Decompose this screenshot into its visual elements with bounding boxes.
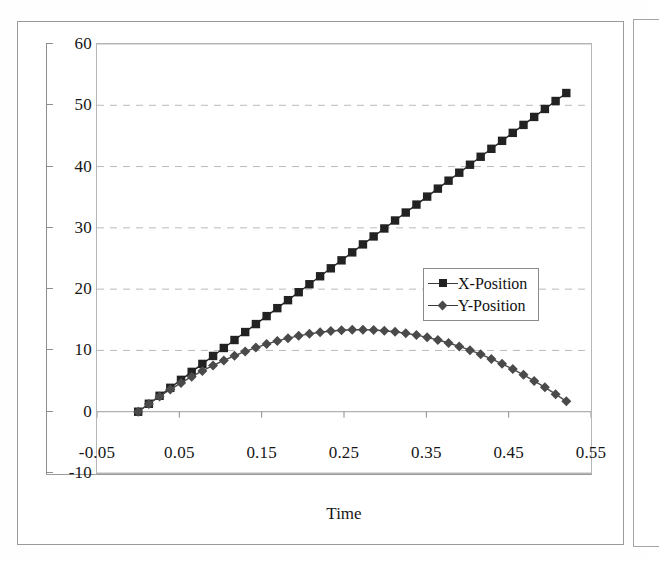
- data-point-marker: [359, 240, 367, 248]
- data-point-marker: [304, 329, 314, 339]
- data-point-marker: [295, 288, 303, 296]
- x-axis-title: Time: [96, 504, 592, 524]
- data-point-marker: [337, 256, 345, 264]
- data-point-marker: [476, 153, 484, 161]
- data-point-marker: [379, 326, 389, 336]
- plot-svg: [97, 44, 591, 473]
- data-point-marker: [487, 145, 495, 153]
- data-point-marker: [402, 208, 410, 216]
- data-point-marker: [412, 200, 420, 208]
- data-point-marker: [369, 325, 379, 335]
- data-point-marker: [390, 327, 400, 337]
- data-point-marker: [562, 89, 570, 97]
- y-axis-tick-labels: -100102030405060: [30, 0, 92, 562]
- x-tick-label: 0.55: [556, 444, 626, 461]
- category-axis-spine: [46, 474, 592, 475]
- data-point-marker: [240, 346, 250, 356]
- data-point-marker: [540, 382, 550, 392]
- data-point-marker: [444, 338, 454, 348]
- y-tick-label: 60: [48, 35, 92, 52]
- chart-legend: X-Position Y-Position: [423, 268, 539, 321]
- data-point-marker: [551, 389, 561, 399]
- y-tick-label: 50: [48, 96, 92, 113]
- diamond-marker-icon: [428, 299, 458, 313]
- legend-label-y-position: Y-Position: [458, 298, 526, 314]
- data-point-marker: [262, 339, 272, 349]
- y-tick-label: 40: [48, 158, 92, 175]
- x-tick-label: 0.35: [391, 444, 461, 461]
- data-point-marker: [294, 331, 304, 341]
- data-point-marker: [444, 176, 452, 184]
- data-point-marker: [541, 105, 549, 113]
- legend-item-x-position[interactable]: X-Position: [424, 273, 538, 295]
- data-point-marker: [348, 248, 356, 256]
- data-point-marker: [434, 184, 442, 192]
- data-point-marker: [369, 232, 377, 240]
- data-point-marker: [337, 325, 347, 335]
- data-point-marker: [529, 376, 539, 386]
- data-point-marker: [519, 121, 527, 129]
- data-point-marker: [391, 216, 399, 224]
- data-point-marker: [422, 332, 432, 342]
- data-point-marker: [551, 97, 559, 105]
- data-point-marker: [347, 325, 357, 335]
- data-point-marker: [454, 341, 464, 351]
- data-point-marker: [358, 325, 368, 335]
- data-point-marker: [251, 343, 261, 353]
- data-point-marker: [497, 359, 507, 369]
- data-point-marker: [219, 355, 229, 365]
- x-tick-label: -0.05: [62, 444, 132, 461]
- legend-item-y-position[interactable]: Y-Position: [424, 295, 538, 317]
- data-point-marker: [208, 361, 218, 371]
- data-point-marker: [423, 192, 431, 200]
- plot-area: [96, 43, 592, 474]
- data-point-marker: [284, 296, 292, 304]
- data-point-marker: [561, 396, 571, 406]
- x-tick-label: 0.45: [474, 444, 544, 461]
- legend-label-x-position: X-Position: [458, 276, 527, 292]
- y-tick-label: 0: [48, 403, 92, 420]
- data-point-marker: [433, 335, 443, 345]
- data-point-marker: [230, 336, 238, 344]
- data-point-marker: [229, 351, 239, 361]
- x-tick-label: 0.05: [144, 444, 214, 461]
- data-point-marker: [518, 370, 528, 380]
- data-point-marker: [316, 272, 324, 280]
- y-tick-label: 30: [48, 219, 92, 236]
- data-point-marker: [327, 264, 335, 272]
- data-point-marker: [411, 330, 421, 340]
- data-point-marker: [283, 333, 293, 343]
- x-tick-label: 0.15: [227, 444, 297, 461]
- x-axis-tick-labels: -0.050.050.150.250.350.450.55: [0, 444, 647, 470]
- data-point-marker: [498, 137, 506, 145]
- data-point-marker: [220, 344, 228, 352]
- data-point-marker: [401, 328, 411, 338]
- data-point-marker: [305, 280, 313, 288]
- x-tick-label: 0.25: [309, 444, 379, 461]
- y-tick-label: 20: [48, 280, 92, 297]
- data-point-marker: [262, 312, 270, 320]
- data-point-marker: [466, 161, 474, 169]
- data-point-marker: [241, 328, 249, 336]
- data-point-marker: [508, 364, 518, 374]
- data-point-marker: [455, 169, 463, 177]
- data-point-marker: [209, 352, 217, 360]
- square-marker-icon: [428, 277, 458, 291]
- data-point-marker: [465, 345, 475, 355]
- data-point-marker: [252, 320, 260, 328]
- data-point-marker: [509, 129, 517, 137]
- data-point-marker: [315, 327, 325, 337]
- data-point-marker: [380, 224, 388, 232]
- data-point-marker: [273, 304, 281, 312]
- data-point-marker: [486, 354, 496, 364]
- data-point-marker: [272, 336, 282, 346]
- data-point-marker: [326, 326, 336, 336]
- data-point-marker: [530, 113, 538, 121]
- y-tick-label: 10: [48, 341, 92, 358]
